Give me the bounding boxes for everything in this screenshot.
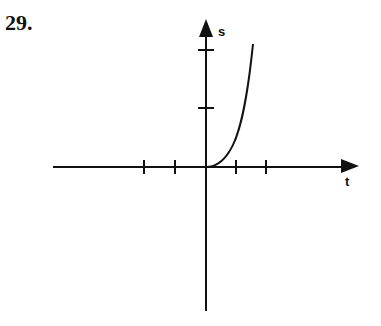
y-axis-label: s: [218, 24, 225, 39]
y-axis-arrow-icon: [199, 19, 213, 37]
graph: s t: [0, 0, 381, 326]
x-axis-arrow-icon: [341, 159, 359, 173]
x-axis-label: t: [345, 174, 350, 189]
curve: [206, 44, 253, 167]
